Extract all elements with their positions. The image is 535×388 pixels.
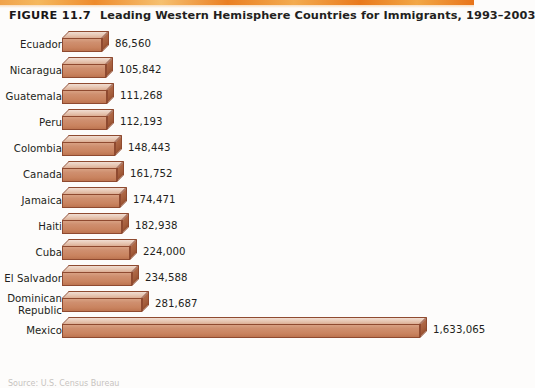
bar-category-label: Guatemala (0, 91, 62, 103)
bar-row: Jamaica174,471 (0, 187, 474, 213)
bar-category-label: Peru (0, 117, 62, 129)
bar-category-label: Ecuador (0, 39, 62, 51)
bar-3d (62, 291, 149, 317)
bar-3d (62, 239, 137, 265)
figure-number: FIGURE 11.7 (9, 9, 91, 22)
bar-top-face (62, 291, 149, 298)
bar-3d (62, 57, 113, 83)
bar-value-label: 86,560 (115, 38, 151, 49)
bar-row: Guatemala111,268 (0, 83, 474, 109)
bar-front-face (62, 64, 106, 78)
bar-row: Colombia148,443 (0, 135, 474, 161)
bar-top-face (62, 265, 139, 272)
bar-category-label: El Salvador (0, 273, 62, 285)
bar-row: Cuba224,000 (0, 239, 474, 265)
bar-row: Ecuador86,560 (0, 31, 474, 57)
bar-front-face (62, 220, 122, 234)
bar-category-label: Haiti (0, 221, 62, 233)
bar-front-face (62, 246, 130, 260)
bar-value-label: 1,633,065 (433, 324, 485, 335)
bar-value-label: 112,193 (120, 116, 162, 127)
bar-category-label: Canada (0, 169, 62, 181)
bar-row: DominicanRepublic281,687 (0, 291, 474, 317)
bar-top-face (62, 135, 122, 142)
bar-value-label: 111,268 (120, 90, 162, 101)
bar-3d (62, 109, 114, 135)
decorative-top-rule-fade (0, 5, 474, 8)
bar-value-label: 234,588 (145, 272, 187, 283)
bar-top-face (62, 239, 137, 246)
source-note-clipped: Source: U.S. Census Bureau (8, 379, 308, 388)
figure-title: Leading Western Hemisphere Countries for… (100, 9, 535, 22)
bar-category-label: Jamaica (0, 195, 62, 207)
bar-front-face (62, 168, 117, 182)
bar-row: Mexico1,633,065 (0, 317, 474, 343)
bar-row: Canada161,752 (0, 161, 474, 187)
bar-category-label: Nicaragua (0, 65, 62, 77)
bar-front-face (62, 298, 142, 312)
bar-front-face (62, 38, 102, 52)
bar-category-label: Cuba (0, 247, 62, 259)
bar-front-face (62, 116, 107, 130)
source-note-text: Source: U.S. Census Bureau (8, 379, 308, 388)
bar-front-face (62, 324, 420, 338)
bar-chart: Ecuador86,560Nicaragua105,842Guatemala11… (0, 28, 474, 376)
bar-category-label: Mexico (0, 325, 62, 337)
bar-category-label: Colombia (0, 143, 62, 155)
figure-caption: FIGURE 11.7Leading Western Hemisphere Co… (9, 9, 469, 22)
bar-value-label: 182,938 (135, 220, 177, 231)
bar-value-label: 161,752 (130, 168, 172, 179)
bar-3d (62, 31, 109, 57)
bar-row: Nicaragua105,842 (0, 57, 474, 83)
bar-3d (62, 213, 129, 239)
bar-top-face (62, 187, 127, 194)
bar-value-label: 174,471 (133, 194, 175, 205)
bar-row: Peru112,193 (0, 109, 474, 135)
bar-value-label: 148,443 (128, 142, 170, 153)
bar-top-face (62, 161, 124, 168)
bar-front-face (62, 142, 115, 156)
bar-value-label: 281,687 (155, 298, 197, 309)
bar-front-face (62, 194, 120, 208)
bar-value-label: 224,000 (143, 246, 185, 257)
bar-3d (62, 135, 122, 161)
bar-top-face (62, 213, 129, 220)
bar-3d (62, 83, 114, 109)
bar-top-face (62, 317, 427, 324)
bar-3d (62, 161, 124, 187)
bar-row: Haiti182,938 (0, 213, 474, 239)
bar-3d (62, 187, 127, 213)
bar-3d (62, 265, 139, 291)
bar-category-label: DominicanRepublic (0, 293, 62, 316)
bar-front-face (62, 272, 132, 286)
bar-3d (62, 317, 427, 343)
bar-value-label: 105,842 (119, 64, 161, 75)
bar-row: El Salvador234,588 (0, 265, 474, 291)
bar-front-face (62, 90, 107, 104)
